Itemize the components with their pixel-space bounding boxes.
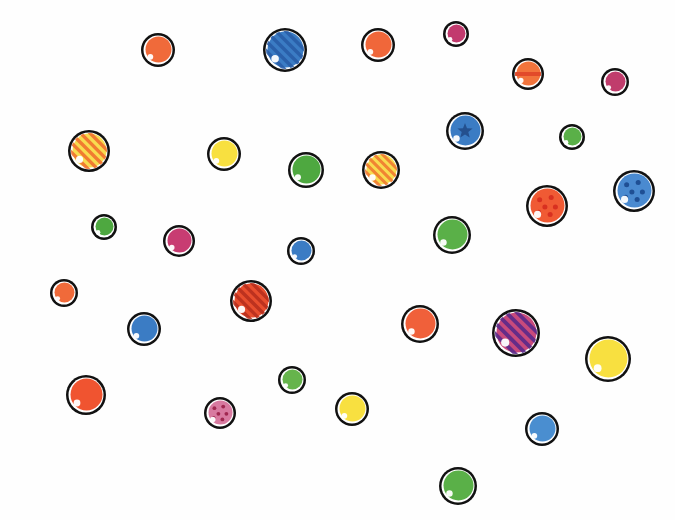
ball [361,28,395,62]
ball [66,375,106,415]
ball [288,152,324,188]
ball [127,312,161,346]
ball [287,237,315,265]
ball [446,112,484,150]
ball [243,28,327,72]
ball [439,467,477,505]
ball [585,336,631,382]
ball [211,280,291,322]
colorful-balls-illustration [0,0,675,520]
ball [401,305,439,343]
ball [512,58,544,90]
ball [207,137,241,171]
ball [278,366,306,394]
ball [525,412,559,446]
ball [91,214,117,240]
ball [613,170,655,212]
ball [345,151,417,189]
ball [470,309,561,357]
ball [433,216,471,254]
ball [601,68,629,96]
ball [335,392,369,426]
ball [443,21,469,47]
ball [50,279,78,307]
ball [141,33,175,67]
ball [49,130,129,172]
ball [526,185,568,227]
ball [163,225,195,257]
balls-artwork [0,0,675,520]
ball [204,397,236,429]
ball [559,124,585,150]
